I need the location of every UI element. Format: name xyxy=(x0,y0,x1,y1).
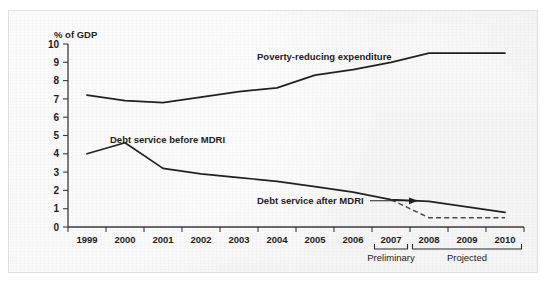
series-annotation-label: Debt service after MDRI xyxy=(257,195,364,206)
series-annotation-label: Debt service before MDRI xyxy=(110,134,225,145)
y-tick-label: 1 xyxy=(53,203,59,214)
x-tick-label: 2010 xyxy=(494,234,515,245)
y-tick-label: 5 xyxy=(53,130,59,141)
y-tick-label: 2 xyxy=(53,185,59,196)
x-tick-label: 2004 xyxy=(266,234,288,245)
x-tick-label: 2008 xyxy=(418,234,439,245)
annotation-layer: Poverty-reducing expenditureDebt service… xyxy=(110,51,418,206)
period-bracket-label: Projected xyxy=(447,252,487,263)
y-tick-label: 9 xyxy=(53,57,59,68)
x-tick-label: 2009 xyxy=(456,234,477,245)
period-bracket-label: Preliminary xyxy=(367,252,415,263)
y-tick-label: 10 xyxy=(48,39,60,50)
y-tick-label: 3 xyxy=(53,167,59,178)
figure-container: · · · · · % of GDP 012345678910 19992000… xyxy=(0,0,546,283)
y-tick-label: 0 xyxy=(53,222,59,233)
y-tick-label: 6 xyxy=(53,112,59,123)
x-tick-label: 2001 xyxy=(152,234,174,245)
x-tick-label: 2002 xyxy=(190,234,211,245)
x-tick-label: 2003 xyxy=(228,234,249,245)
x-tick-label: 2000 xyxy=(114,234,135,245)
y-axis-title: % of GDP xyxy=(54,29,98,40)
annotation-arrowhead xyxy=(409,197,418,204)
x-tick-label: 2006 xyxy=(342,234,363,245)
y-tick-label: 7 xyxy=(53,94,59,105)
x-tick-label: 2005 xyxy=(304,234,326,245)
line-chart: % of GDP 012345678910 199920002001200220… xyxy=(0,0,546,283)
y-axis-ticks: 012345678910 xyxy=(48,39,68,233)
series-annotation-label: Poverty-reducing expenditure xyxy=(257,51,392,62)
x-tick-label: 2007 xyxy=(380,234,401,245)
x-axis-ticks: 1999200020012002200320042005200620072008… xyxy=(68,227,524,245)
y-tick-label: 4 xyxy=(53,148,59,159)
period-bracket-layer: PreliminaryProjected xyxy=(367,244,521,263)
series-line xyxy=(391,200,505,218)
x-tick-label: 1999 xyxy=(76,234,97,245)
y-tick-label: 8 xyxy=(53,75,59,86)
